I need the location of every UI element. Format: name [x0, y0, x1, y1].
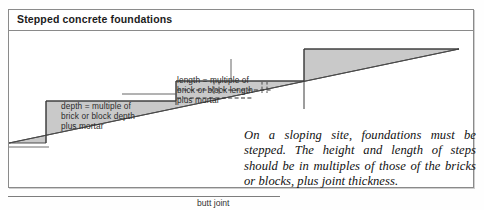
annotation-depth: depth = multiple of brick or block depth… [61, 101, 135, 132]
panel-title: Stepped concrete foundations [17, 13, 172, 25]
butt-joint-rule [8, 196, 280, 197]
panel-title-bar: Stepped concrete foundations [9, 10, 473, 31]
explanatory-caption: On a sloping site, foundations must be s… [244, 128, 476, 190]
page-root: Stepped concrete foundations [0, 0, 484, 210]
annotation-length: length = multiple of brick or block leng… [177, 75, 253, 106]
figure-panel: Stepped concrete foundations [8, 9, 474, 188]
butt-joint-label: butt joint [197, 198, 230, 208]
